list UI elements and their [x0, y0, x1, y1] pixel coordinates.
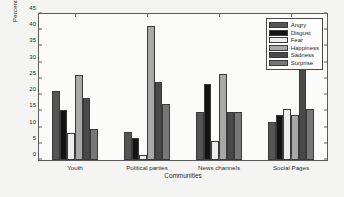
x-tick-label: News channels: [198, 164, 240, 171]
bar: [83, 98, 91, 160]
x-axis-title: Communities: [164, 172, 201, 179]
y-tick-mark: [39, 126, 42, 127]
bar: [306, 109, 314, 160]
x-tick-label: Youth: [67, 164, 83, 171]
y-tick-mark: [39, 13, 42, 14]
y-tick-label: 45: [29, 5, 39, 11]
plot-area: Percentage of Users 051015202530354045 Y…: [38, 13, 328, 161]
x-tick-mark: [219, 14, 220, 17]
y-tick-mark: [39, 61, 42, 62]
y-tick-label: 35: [29, 37, 39, 43]
bar: [211, 141, 219, 160]
bar: [147, 26, 155, 160]
y-tick-mark: [324, 142, 327, 143]
y-tick-mark: [324, 94, 327, 95]
y-tick-label: 25: [29, 70, 39, 76]
bar: [52, 91, 60, 160]
y-tick-mark: [324, 29, 327, 30]
y-tick-mark: [324, 13, 327, 14]
legend-label: Disgust: [291, 30, 311, 36]
bar: [204, 84, 212, 160]
x-tick-mark: [147, 14, 148, 17]
legend-swatch: [269, 60, 288, 66]
legend-label: Fear: [291, 37, 303, 43]
y-tick-mark: [324, 110, 327, 111]
y-tick-mark: [39, 94, 42, 95]
bar: [139, 155, 147, 161]
bar: [124, 132, 132, 160]
legend-item: Angry: [269, 22, 319, 29]
bar: [219, 74, 227, 160]
y-tick-label: 0: [33, 151, 39, 157]
x-tick-label: Social Pages: [273, 164, 309, 171]
legend-label: Angry: [291, 22, 307, 28]
chart-legend: AngryDisgustFearHappinessSadnessSurprise: [266, 18, 323, 70]
bar: [196, 112, 204, 160]
y-tick-label: 40: [29, 21, 39, 27]
legend-item: Sadness: [269, 52, 319, 59]
legend-item: Disgust: [269, 29, 319, 36]
x-tick-mark: [75, 157, 76, 160]
y-tick-mark: [39, 110, 42, 111]
bar: [299, 64, 307, 160]
y-tick-mark: [324, 126, 327, 127]
y-tick-mark: [324, 61, 327, 62]
y-tick-label: 20: [29, 86, 39, 92]
legend-label: Surprise: [291, 60, 313, 66]
bar: [75, 75, 83, 160]
legend-label: Sadness: [291, 52, 314, 58]
y-tick-label: 5: [33, 135, 39, 141]
y-tick-mark: [39, 29, 42, 30]
legend-item: Fear: [269, 37, 319, 44]
bar: [291, 115, 299, 160]
y-tick-mark: [324, 77, 327, 78]
x-tick-label: Political parties: [126, 164, 168, 171]
y-tick-label: 15: [29, 102, 39, 108]
legend-label: Happiness: [291, 45, 319, 51]
y-tick-mark: [39, 159, 42, 160]
y-tick-label: 10: [29, 119, 39, 125]
y-axis-title: Percentage of Users: [11, 0, 18, 48]
legend-swatch: [269, 45, 288, 51]
bar: [268, 122, 276, 160]
legend-item: Surprise: [269, 59, 319, 66]
bar: [67, 133, 75, 160]
y-tick-mark: [39, 77, 42, 78]
y-tick-label: 30: [29, 54, 39, 60]
y-tick-mark: [39, 142, 42, 143]
legend-item: Happiness: [269, 44, 319, 51]
y-tick-mark: [39, 45, 42, 46]
bar: [155, 82, 163, 161]
x-tick-mark: [219, 157, 220, 160]
bar: [234, 112, 242, 160]
bar: [162, 104, 170, 160]
y-tick-mark: [324, 159, 327, 160]
bar: [60, 110, 68, 160]
x-tick-mark: [291, 14, 292, 17]
x-tick-mark: [147, 157, 148, 160]
x-tick-mark: [75, 14, 76, 17]
bar: [90, 129, 98, 160]
bar: [132, 138, 140, 160]
legend-swatch: [269, 37, 288, 43]
legend-swatch: [269, 30, 288, 36]
bar: [227, 112, 235, 160]
bar: [276, 115, 284, 160]
bar: [283, 109, 291, 160]
legend-swatch: [269, 52, 288, 58]
figure-canvas: Percentage of Users 051015202530354045 Y…: [0, 0, 344, 197]
y-tick-mark: [324, 45, 327, 46]
x-tick-mark: [291, 157, 292, 160]
legend-swatch: [269, 22, 288, 28]
